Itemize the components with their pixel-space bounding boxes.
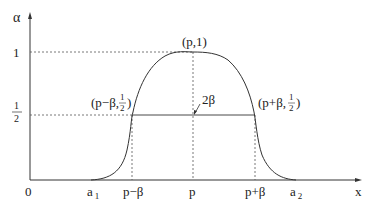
width-label: 2β [202,92,216,107]
y-axis-arrow-icon [28,12,32,19]
x-tick-p: p [189,184,196,199]
left-half-label-prefix: (p−β, [91,95,119,110]
x-tick-p-plus-beta: p+β [245,184,266,199]
left-half-num: 1 [120,92,125,102]
peak-label: (p,1) [182,34,207,49]
x-tick-p-minus-beta: p−β [123,184,144,199]
origin-label: 0 [25,184,32,199]
bump-curve [91,52,296,180]
right-half-den: 2 [289,103,294,113]
left-half-close: ) [127,95,131,110]
x-axis-label: x [355,184,362,199]
y-tick-half-num: 1 [14,100,19,111]
y-axis-label: α [13,10,21,25]
y-tick-one: 1 [13,45,20,60]
y-tick-half-den: 2 [14,113,19,124]
right-half-close: ) [296,95,300,110]
bump-function-diagram: α 1 1 2 0 a1 p−β p p+β a2 x (p,1) (p−β, … [0,0,372,210]
x-tick-a1: a1 [87,184,99,201]
right-half-label-prefix: (p+β, [258,95,286,110]
left-half-den: 2 [120,103,125,113]
right-half-num: 1 [289,92,294,102]
x-axis-arrow-icon [355,178,362,182]
x-tick-a2: a2 [290,184,302,201]
